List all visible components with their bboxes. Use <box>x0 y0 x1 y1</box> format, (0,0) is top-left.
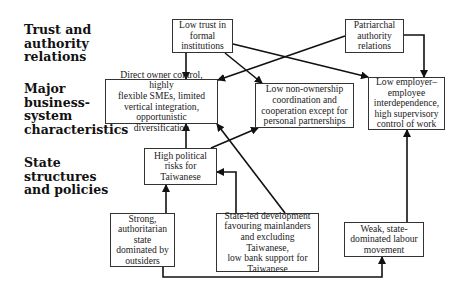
node-patriarchal: Patriarchal authority relations <box>345 19 404 53</box>
edge-stateled-directowner <box>217 124 285 213</box>
edge-patriarchal-employer <box>404 35 424 77</box>
edge-patriarchal-directowner <box>218 36 345 80</box>
node-weak-labour: Weak, state- dominated labour movement <box>344 222 424 257</box>
diagram-canvas: Trust and authority relations Major busi… <box>0 0 466 288</box>
edge-political-nonownership <box>211 128 258 148</box>
edge-stateled-political <box>217 172 236 213</box>
node-high-political: High political risks for Taiwanese <box>144 148 217 185</box>
node-state-led: State-led development favouring mainland… <box>216 213 319 272</box>
node-low-employer: Low employer– employee interdependence, … <box>368 77 445 130</box>
node-direct-owner: Direct owner control, highly flexible SM… <box>105 79 218 124</box>
node-low-non-ownership: Low non-ownership coordination and coope… <box>255 83 354 128</box>
node-strong-state: Strong, authoritarian state dominated by… <box>110 213 175 267</box>
edge-lowtrust-nonownership <box>225 53 262 83</box>
node-low-trust: Low trust in formal institutions <box>172 19 233 53</box>
